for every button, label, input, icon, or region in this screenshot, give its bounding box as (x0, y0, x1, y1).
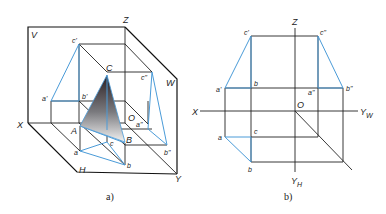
label-axis-y: Y (175, 174, 182, 184)
v-projection-triangle (51, 44, 79, 101)
figure-a-isometric: V Z W X Y H O c' a' b' C A B c" a" b" a … (16, 15, 182, 203)
label-a-b: a (218, 134, 222, 141)
label-c: c (110, 140, 114, 147)
label-axis-yh: YH (291, 176, 303, 188)
caption-b: b) (284, 191, 292, 203)
label-origin: O (128, 113, 135, 123)
label-a: a (74, 149, 78, 156)
label-b-prime-b: b (254, 80, 258, 87)
label-c-double-prime-b: c" (320, 29, 327, 36)
label-b: b (127, 162, 131, 169)
label-plane-h: H (79, 165, 86, 175)
label-axis-z-b: Z (291, 17, 298, 27)
label-c-prime: c' (72, 37, 78, 44)
side-view-triangle (318, 36, 343, 88)
label-plane-v: V (31, 30, 38, 40)
label-b-prime: b' (82, 93, 88, 100)
label-point-A: A (70, 126, 77, 136)
label-a-double-prime-b: a" (308, 89, 315, 96)
c1-to-C-line (79, 44, 107, 72)
caption-a: a) (106, 191, 114, 203)
label-a-double-prime: a" (136, 121, 143, 128)
label-a-prime: a' (42, 95, 48, 102)
label-b-double-prime: b" (164, 149, 171, 156)
top-view-triangle (225, 137, 251, 162)
label-a-prime-b: a' (216, 86, 222, 93)
label-axis-yw: YW (360, 107, 374, 119)
label-axis-x-b: X (191, 107, 199, 117)
c-to-c2-line (125, 44, 152, 72)
label-point-C: C (106, 63, 113, 73)
orthographic-projection-figure: V Z W X Y H O c' a' b' C A B c" a" b" a … (0, 0, 386, 214)
label-c-prime-b: c' (244, 29, 250, 36)
label-axis-x: X (16, 120, 24, 130)
label-axis-z: Z (122, 15, 129, 25)
label-plane-w: W (166, 78, 176, 88)
front-view-triangle (225, 36, 251, 88)
w-projection-triangle (148, 72, 167, 145)
h-projection-triangle (80, 142, 125, 165)
label-b-double-prime-b: b" (346, 85, 353, 92)
label-c-double-prime: c" (141, 74, 148, 81)
figure-b-orthographic: Z O X YW YH c' a' b c" a" b" a c b b) (191, 17, 374, 203)
label-point-B: B (126, 135, 132, 145)
45-degree-line (295, 111, 352, 170)
label-origin-b: O (297, 100, 304, 110)
label-c-b: c (254, 128, 258, 135)
label-b-b: b (248, 166, 252, 173)
